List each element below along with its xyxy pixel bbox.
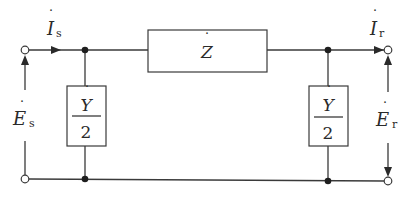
label-voltage-send: ˙ E s — [12, 99, 35, 130]
junction-dot-bottom-left — [82, 176, 89, 183]
pi-circuit-diagram: Z ˙ Y ˙ 2 Y ˙ 2 — [0, 0, 405, 206]
svg-text:E: E — [12, 108, 26, 129]
series-impedance: Z ˙ — [148, 30, 267, 72]
svg-text:s: s — [56, 27, 62, 40]
label-current-send: ˙ I s — [46, 8, 62, 40]
svg-text:r: r — [392, 118, 398, 131]
shunt-right-denominator: 2 — [323, 123, 334, 143]
terminal-recv-bottom — [384, 177, 392, 185]
terminal-send-bottom — [21, 175, 29, 183]
current-arrow-send — [51, 46, 61, 54]
junction-dot-top-right — [325, 47, 332, 54]
label-voltage-recv: ˙ E r — [375, 100, 398, 131]
impedance-dot: ˙ — [204, 31, 211, 47]
junction-dot-bottom-right — [325, 178, 332, 185]
terminal-send-top — [21, 46, 29, 54]
svg-text:I: I — [46, 18, 55, 39]
shunt-left-denominator: 2 — [81, 122, 92, 142]
terminal-recv-top — [384, 46, 392, 54]
junction-dot-top-left — [82, 47, 89, 54]
svg-text:˙: ˙ — [326, 84, 333, 100]
label-current-recv: ˙ I r — [369, 8, 385, 40]
svg-text:˙: ˙ — [84, 84, 91, 100]
svg-text:r: r — [379, 27, 385, 40]
current-arrow-recv — [374, 46, 384, 54]
shunt-admittance-left: Y ˙ 2 — [67, 50, 106, 179]
svg-text:I: I — [369, 18, 378, 39]
svg-text:s: s — [29, 117, 35, 130]
svg-text:E: E — [375, 109, 389, 130]
shunt-admittance-right: Y ˙ 2 — [309, 50, 348, 181]
